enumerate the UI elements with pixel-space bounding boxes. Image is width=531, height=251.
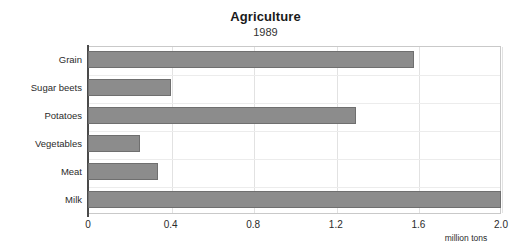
- chart-screenshot: Agriculture 1989 GrainSugar beetsPotatoe…: [0, 0, 531, 251]
- bar-row: [88, 102, 501, 130]
- category-label-grain: Grain: [0, 54, 82, 65]
- bar-meat[interactable]: [88, 163, 158, 180]
- x-tick-label: 2.0: [481, 219, 521, 230]
- chart-subtitle: 1989: [0, 26, 531, 38]
- category-label-meat: Meat: [0, 166, 82, 177]
- bar-vegetables[interactable]: [88, 135, 140, 152]
- x-tick-label: 1.6: [398, 219, 438, 230]
- gridline-vertical: [502, 47, 503, 213]
- bar-potatoes[interactable]: [88, 107, 356, 124]
- x-tick-label: 0.8: [233, 219, 273, 230]
- bar-sugar-beets[interactable]: [88, 79, 171, 96]
- category-label-vegetables: Vegetables: [0, 138, 82, 149]
- bar-row: [88, 130, 501, 158]
- x-axis-unit-label: million tons: [401, 233, 531, 243]
- x-tick-label: 0: [68, 219, 108, 230]
- bar-grain[interactable]: [88, 51, 414, 68]
- x-tick-label: 1.2: [316, 219, 356, 230]
- category-label-milk: Milk: [0, 194, 82, 205]
- bar-milk[interactable]: [88, 191, 501, 208]
- bar-row: [88, 158, 501, 186]
- bar-row: [88, 186, 501, 214]
- x-tick-label: 0.4: [151, 219, 191, 230]
- category-label-sugar-beets: Sugar beets: [0, 82, 82, 93]
- chart-title: Agriculture: [0, 9, 531, 24]
- bar-row: [88, 46, 501, 74]
- category-label-potatoes: Potatoes: [0, 110, 82, 121]
- bar-row: [88, 74, 501, 102]
